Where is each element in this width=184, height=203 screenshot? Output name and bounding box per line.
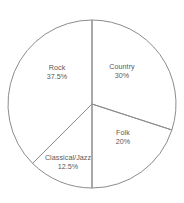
pie-chart: Country30%Folk20%Classical/Jazz12.5%Rock… [0,0,184,203]
pie-slice-rock[interactable] [8,20,92,163]
pie-slice-country[interactable] [92,20,176,130]
pie-slice-folk[interactable] [92,104,172,188]
pie-slice-classical-jazz[interactable] [33,104,92,188]
pie-chart-canvas [0,0,184,203]
